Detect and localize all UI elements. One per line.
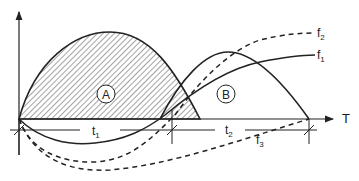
region-a-label: A — [97, 85, 115, 103]
region-a-area — [19, 32, 200, 119]
svg-text:B: B — [222, 88, 230, 102]
curve-f3-label: f3 — [256, 133, 264, 149]
curve-f2-label: f2 — [317, 26, 325, 42]
t-axis-label: T — [342, 111, 350, 126]
interval-t2-label: t2 — [225, 123, 233, 139]
region-b-label: B — [217, 85, 235, 103]
svg-text:A: A — [102, 88, 110, 102]
curve-f1-label: f1 — [317, 48, 325, 64]
interval-t1-label: t1 — [92, 124, 100, 140]
diagram-canvas: A B t1 t2 f1 f2 f3 T — [0, 0, 359, 181]
